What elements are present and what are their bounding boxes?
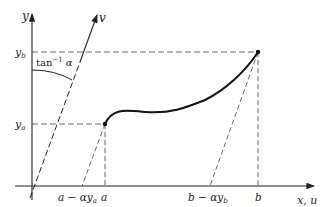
tick-a-shift: a − αya	[58, 191, 97, 205]
angle-arc	[32, 70, 72, 80]
function-curve	[105, 52, 258, 124]
tick-a: a	[101, 191, 107, 203]
b-projection-line	[210, 52, 258, 186]
point-a	[103, 122, 107, 126]
diagram-canvas: y v x, u yb ya tan−1α a − αya a b − αyb …	[0, 0, 330, 207]
y-b-label: yb	[14, 46, 26, 60]
tick-b: b	[255, 191, 262, 203]
point-b	[256, 50, 260, 54]
v-axis	[80, 15, 97, 62]
tick-b-shift: b − αyb	[188, 191, 228, 205]
v-axis-dashed	[30, 62, 80, 198]
angle-label: tan−1α	[36, 56, 73, 68]
y-axis-label: y	[21, 9, 29, 23]
v-axis-label: v	[99, 11, 106, 25]
x-axis-label: x, u	[297, 194, 317, 207]
y-a-label: ya	[14, 118, 25, 132]
a-projection-line	[82, 124, 105, 186]
